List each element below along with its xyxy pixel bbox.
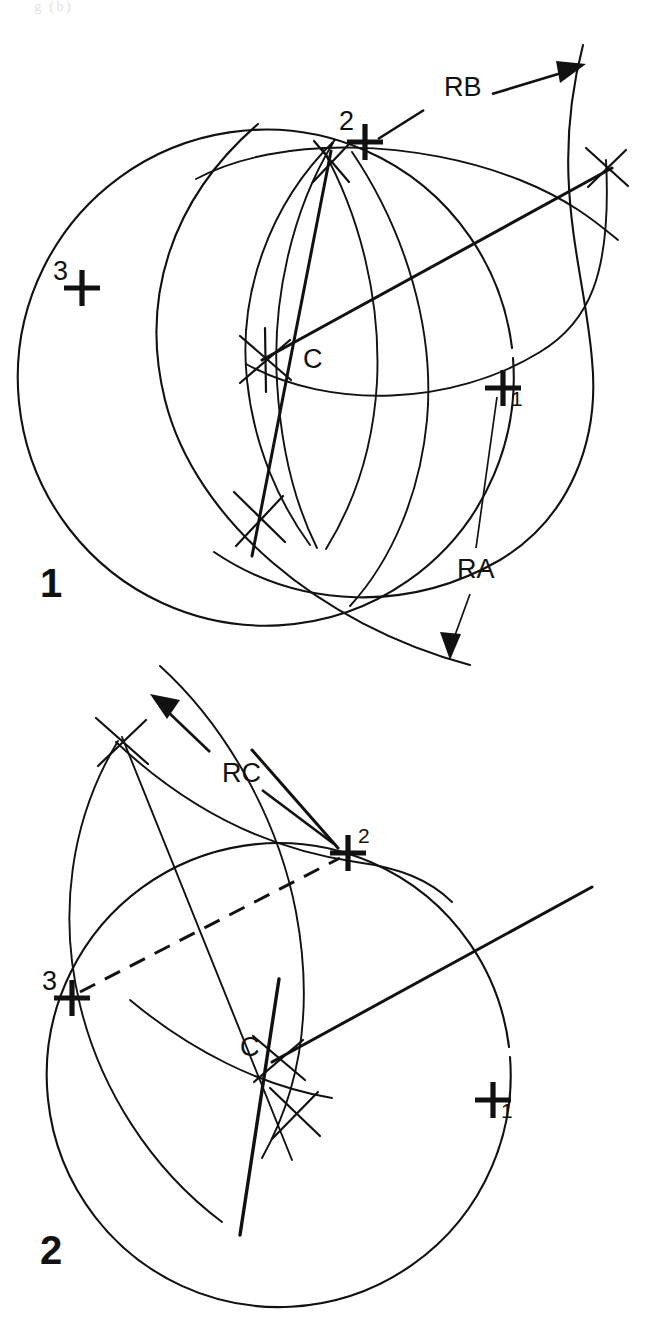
figure-2-chord-2-to-arc <box>252 750 338 848</box>
figure-2-line-upper-left <box>122 737 292 1160</box>
figure-2-label-point-3: 3 <box>42 966 57 996</box>
figure-2-perpendicular-bisector <box>240 979 279 1235</box>
figure-2-label-point-1: 1 <box>501 1099 513 1122</box>
figure-1-arc-c6 <box>196 148 618 240</box>
figure-1-leader-rb-inner <box>378 110 424 139</box>
figure-1-label-point-2: 2 <box>339 106 354 136</box>
figure-1-arc-rb <box>214 45 593 597</box>
figure-2-label-rc: RC <box>222 758 261 788</box>
ghost-header-text: g (b) <box>34 0 73 15</box>
figure-1-label-rb: RB <box>444 72 482 102</box>
figure-2-chord-3-to-2 <box>80 858 340 992</box>
figure-1-point-3-cross <box>64 270 100 306</box>
construction-drawing: RB RA C 1 2 3 1 <box>0 0 649 1321</box>
figure-1-group: RB RA C 1 2 3 1 <box>18 45 628 665</box>
figure-2-label-c: C <box>240 1032 260 1062</box>
figure-2-label-point-2: 2 <box>358 824 370 847</box>
figure-1-leader-ra-lower <box>454 594 470 638</box>
figure-1-arc-c4 <box>350 152 428 606</box>
figure-2-arc-left <box>69 741 222 1222</box>
figure-1-label-point-1: 1 <box>511 387 523 410</box>
figure-1-arrowhead-rb <box>556 61 586 83</box>
figure-2-arc-right <box>160 666 304 1158</box>
figure-2-point-3-cross <box>54 980 90 1016</box>
figure-1-arc-c3 <box>322 148 377 549</box>
figure-2-line-c-upright <box>272 887 592 1062</box>
figure-2-group: RC C 1 2 3 2 <box>40 666 592 1307</box>
figure-1-number: 1 <box>40 561 62 605</box>
diagram-root: g (b) <box>0 0 649 1321</box>
figure-1-arc-ra <box>157 124 470 665</box>
figure-2-number: 2 <box>40 1228 62 1272</box>
figure-2-main-circle <box>47 843 511 1307</box>
figure-1-arrowhead-ra <box>440 632 461 660</box>
figure-2-crossmark-upper-left <box>96 718 148 766</box>
figure-2-arrowhead-rc <box>150 694 180 719</box>
figure-2-arc-shallow-bottom <box>130 1000 332 1098</box>
figure-2-leader-rc-lower <box>262 790 334 844</box>
figure-1-label-point-3: 3 <box>53 256 68 286</box>
figure-2-leader-rc-upper <box>166 710 210 752</box>
figure-1-label-c: C <box>303 344 323 374</box>
figure-1-label-ra: RA <box>457 554 495 584</box>
figure-2-crossmark-lower <box>270 1088 320 1139</box>
